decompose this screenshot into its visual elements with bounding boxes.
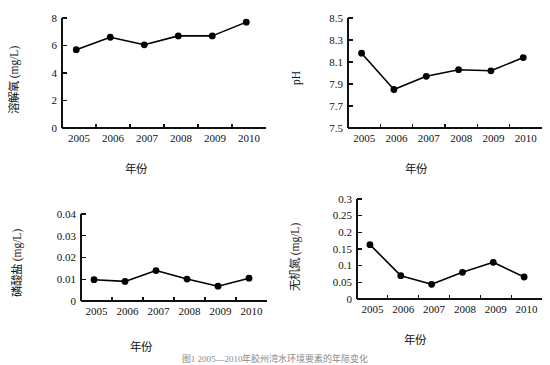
y-tick-label: 8 [52, 12, 58, 24]
x-tick-label: 2010 [238, 132, 261, 144]
data-series-line [94, 271, 249, 287]
x-tick-label: 2010 [241, 305, 264, 317]
x-tick-label: 2006 [392, 303, 415, 315]
data-point-marker [107, 34, 114, 41]
y-tick-label: 6 [52, 39, 58, 51]
data-point-marker [459, 269, 466, 276]
x-tick-label: 2006 [117, 305, 140, 317]
data-point-marker [73, 46, 80, 53]
plot-svg-ph: 7.57.77.98.18.38.52005200620072008200920… [322, 10, 544, 150]
data-point-marker [141, 41, 148, 48]
data-point-marker [246, 275, 253, 282]
x-tick-label: 2008 [179, 305, 202, 317]
data-series-line [76, 22, 246, 50]
y-tick-label: 0.04 [57, 208, 77, 220]
y-tick-label: 0.3 [338, 193, 352, 205]
data-point-marker [428, 281, 435, 288]
x-axis-label-ph: 年份 [305, 160, 527, 176]
data-point-marker [243, 19, 250, 26]
y-tick-label: 0.25 [333, 209, 353, 221]
y-tick-label: 8.5 [329, 12, 343, 24]
x-tick-label: 2009 [483, 132, 506, 144]
x-tick-label: 2010 [516, 303, 539, 315]
x-tick-label: 2010 [515, 132, 538, 144]
x-tick-label: 2008 [170, 132, 193, 144]
x-tick-label: 2007 [423, 303, 446, 315]
y-tick-label: 7.9 [329, 78, 343, 90]
data-series-line [370, 245, 524, 285]
y-tick-label: 0.1 [338, 259, 352, 271]
y-tick-label: 7.5 [329, 122, 343, 134]
data-point-marker [455, 66, 462, 73]
x-tick-label: 2005 [86, 305, 109, 317]
x-tick-label: 2005 [353, 132, 376, 144]
x-tick-label: 2009 [204, 132, 227, 144]
data-point-marker [391, 86, 398, 93]
x-tick-label: 2006 [386, 132, 409, 144]
plot-area-dissolved-oxygen: 02468200520062007200820092010 [36, 10, 268, 150]
chart-panel-inorganic-nitrogen: 无机氮 (mg/L) 00.050.10.150.20.250.32005200… [275, 183, 550, 361]
data-point-marker [488, 67, 495, 74]
data-point-marker [91, 276, 98, 283]
y-tick-label: 8.3 [329, 34, 343, 46]
data-point-marker [423, 73, 430, 80]
y-tick-label: 0 [347, 293, 353, 305]
x-tick-label: 2008 [450, 132, 473, 144]
x-tick-label: 2008 [454, 303, 477, 315]
data-point-marker [520, 54, 527, 61]
x-tick-label: 2007 [148, 305, 171, 317]
plot-area-inorganic-nitrogen: 00.050.10.150.20.250.3200520062007200820… [325, 193, 544, 321]
x-axis-label-inorganic-nitrogen: 年份 [305, 331, 524, 347]
y-tick-label: 0 [71, 295, 77, 307]
y-tick-label: 0 [52, 122, 58, 134]
figure-panel-grid: 溶解氧 (mg/L) 02468200520062007200820092010… [0, 0, 550, 365]
y-tick-label: 0.2 [338, 226, 352, 238]
chart-panel-phosphate: 磷酸盐 (mg/L) 00.010.020.030.04200520062007… [0, 183, 275, 361]
x-tick-label: 2009 [485, 303, 508, 315]
data-point-marker [367, 241, 374, 248]
y-tick-label: 7.7 [329, 100, 343, 112]
plot-svg-dissolved-oxygen: 02468200520062007200820092010 [36, 10, 268, 150]
x-axis-label-dissolved-oxygen: 年份 [20, 160, 252, 176]
y-tick-label: 4 [52, 67, 58, 79]
data-point-marker [175, 32, 182, 39]
y-tick-label: 2 [52, 94, 58, 106]
data-point-marker [184, 276, 191, 283]
x-tick-label: 2009 [210, 305, 233, 317]
y-axis-label-dissolved-oxygen: 溶解氧 (mg/L) [5, 25, 21, 135]
data-point-marker [122, 278, 129, 285]
data-point-marker [397, 272, 404, 279]
plot-svg-phosphate: 00.010.020.030.0420052006200720082009201… [47, 208, 269, 323]
y-tick-label: 0.03 [57, 230, 77, 242]
chart-panel-ph: pH 7.57.77.98.18.38.52005200620072008200… [275, 2, 550, 180]
y-tick-label: 0.02 [57, 251, 76, 263]
data-point-marker [490, 259, 497, 266]
y-axis-label-inorganic-nitrogen: 无机氮 (mg/L) [286, 202, 302, 312]
plot-svg-inorganic-nitrogen: 00.050.10.150.20.250.3200520062007200820… [325, 193, 544, 321]
y-axis-label-ph: pH [290, 23, 302, 133]
y-tick-label: 0.05 [333, 276, 353, 288]
x-tick-label: 2005 [361, 303, 384, 315]
data-point-marker [153, 267, 160, 274]
x-tick-label: 2007 [136, 132, 159, 144]
x-tick-label: 2007 [418, 132, 441, 144]
y-tick-label: 8.1 [329, 56, 343, 68]
data-point-marker [215, 283, 222, 290]
data-series-line [362, 53, 524, 89]
data-point-marker [521, 274, 528, 281]
data-point-marker [358, 50, 365, 57]
data-point-marker [209, 32, 216, 39]
x-tick-label: 2005 [68, 132, 91, 144]
x-tick-label: 2006 [102, 132, 125, 144]
y-tick-label: 0.01 [57, 273, 76, 285]
plot-area-phosphate: 00.010.020.030.0420052006200720082009201… [47, 208, 269, 323]
y-axis-label-phosphate: 磷酸盐 (mg/L) [8, 208, 24, 318]
y-tick-label: 0.15 [333, 243, 353, 255]
figure-caption: 图1 2005—2010年胶州湾水环境要素的年际变化 [0, 352, 550, 365]
plot-area-ph: 7.57.77.98.18.38.52005200620072008200920… [322, 10, 544, 150]
chart-panel-dissolved-oxygen: 溶解氧 (mg/L) 02468200520062007200820092010… [0, 2, 275, 180]
